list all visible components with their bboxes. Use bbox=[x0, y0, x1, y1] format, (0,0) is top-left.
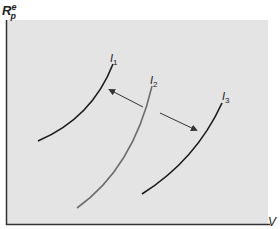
curve-label-i2: I2 bbox=[150, 74, 158, 89]
x-axis-label: V bbox=[268, 215, 276, 229]
y-axis-label: Rep bbox=[2, 1, 16, 23]
y-label-sub: p bbox=[10, 11, 16, 21]
curve-label-i1: I1 bbox=[110, 52, 118, 67]
indifference-curve-diagram bbox=[0, 0, 280, 229]
curve-label-i3: I3 bbox=[222, 90, 230, 105]
plot-panel bbox=[7, 20, 268, 224]
